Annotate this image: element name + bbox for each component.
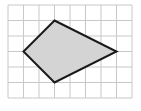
- kite-polygon: [24, 21, 117, 83]
- grid-diagram: [0, 0, 141, 111]
